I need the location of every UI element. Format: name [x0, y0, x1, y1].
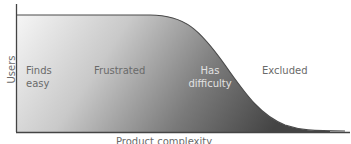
- has-label: Has: [186, 65, 234, 77]
- easy-label: easy: [26, 78, 49, 90]
- finds-label: Finds: [26, 65, 52, 77]
- excluded-label: Excluded: [262, 65, 308, 77]
- frustrated-label: Frustrated: [94, 65, 145, 77]
- y-axis-label: Users: [6, 55, 17, 85]
- x-axis-label: Product complexity: [116, 136, 212, 144]
- difficulty-label: difficulty: [180, 78, 240, 90]
